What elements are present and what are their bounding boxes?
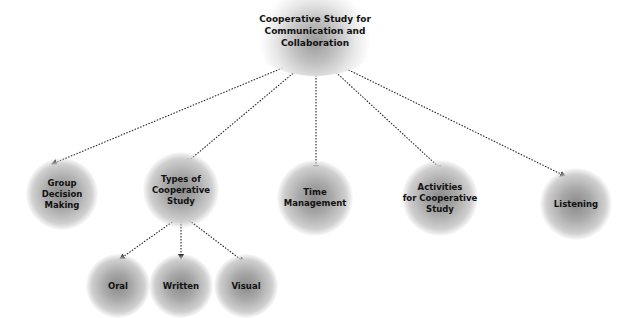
node-activities-for-cooperative-study[interactable]: Activities for Cooperative Study [402, 160, 478, 236]
node-types-of-cooperative-study[interactable]: Types of Cooperative Study [143, 152, 219, 228]
node-visual[interactable]: Visual [214, 254, 278, 318]
root-node-label: Cooperative Study for Communication and … [259, 13, 371, 49]
node-written[interactable]: Written [149, 254, 213, 318]
node-label: Visual [231, 281, 260, 292]
node-oral[interactable]: Oral [86, 254, 150, 318]
node-label: Time Management [284, 187, 347, 209]
dotted-arrow-edge [52, 54, 316, 164]
dotted-arrow-edge [316, 54, 565, 176]
node-listening[interactable]: Listening [540, 168, 612, 240]
node-label: Written [163, 281, 199, 292]
node-label: Oral [108, 281, 128, 292]
node-label: Listening [554, 199, 598, 210]
node-label: Types of Cooperative Study [152, 174, 210, 207]
node-label: Activities for Cooperative Study [403, 182, 478, 215]
node-time-management[interactable]: Time Management [277, 160, 353, 236]
node-label: Group Decision Making [42, 178, 83, 211]
node-group-decision-making[interactable]: Group Decision Making [26, 158, 98, 230]
